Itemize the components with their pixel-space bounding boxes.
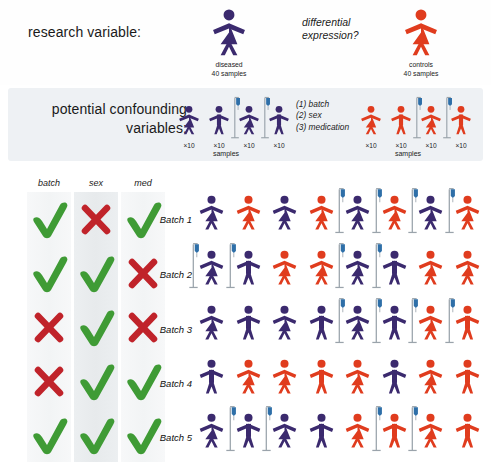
confounder-figure-diseased-1 (176, 100, 202, 145)
samples-label-diseased: samples (191, 150, 261, 157)
matrix-header-sex: sex (74, 178, 118, 188)
batch-2-person-6 (379, 245, 410, 295)
batch-4-person-3 (269, 354, 300, 404)
batch-1-person-1 (196, 190, 227, 240)
batch-4-person-7 (415, 354, 446, 404)
batch-row-5 (196, 406, 491, 458)
batch-5-person-8 (452, 408, 483, 458)
confounder-item-batch: (1) batch (296, 99, 349, 110)
batch-label-4: Batch 4 (140, 378, 192, 389)
batch-1-person-6 (379, 190, 410, 240)
batch-4-person-5 (342, 354, 373, 404)
batch-1-person-3 (269, 190, 300, 240)
figure-canvas: research variable: differential expressi… (0, 0, 491, 476)
confounder-figure-diseased-4 (266, 100, 292, 145)
batch-4-person-1 (196, 354, 227, 404)
batch-2-person-3 (269, 245, 300, 295)
batch-3-person-6 (379, 300, 410, 350)
research-variable-label: research variable: (28, 24, 141, 40)
batch-row-2 (196, 243, 491, 295)
batch-label-5: Batch 5 (140, 432, 192, 443)
batch-3-person-2 (233, 300, 264, 350)
batch-4-person-8 (452, 354, 483, 404)
group-samples-controls: 40 samples (376, 70, 466, 79)
group-samples-diseased: 40 samples (184, 70, 274, 79)
sample-multiplier-label: ×10 (358, 142, 384, 149)
batch-4-person-6 (379, 354, 410, 404)
matrix-cell-sex-row3 (74, 304, 118, 350)
batch-5-person-2 (233, 408, 264, 458)
batch-label-2: Batch 2 (140, 269, 192, 280)
confounder-figure-controls-4 (448, 100, 474, 145)
group-name-diseased: diseased (184, 61, 274, 70)
batch-3-person-8 (452, 300, 483, 350)
matrix-header-batch: batch (27, 178, 71, 188)
batch-2-person-8 (452, 245, 483, 295)
matrix-cell-sex-row2 (74, 250, 118, 296)
batch-1-person-4 (306, 190, 337, 240)
confounder-figure-controls-1 (358, 100, 384, 145)
samples-label-controls: samples (373, 150, 443, 157)
confounders-label-line1: potential confounding (22, 100, 187, 119)
research-caption-controls: controls40 samples (376, 61, 466, 78)
batch-5-person-4 (306, 408, 337, 458)
batch-row-1 (196, 188, 491, 240)
research-figure-diseased (208, 8, 250, 62)
batch-2-person-1 (196, 245, 227, 295)
batch-5-person-5 (342, 408, 373, 458)
matrix-cell-batch-row5 (27, 412, 71, 458)
research-caption-diseased: diseased40 samples (184, 61, 274, 78)
batch-2-person-2 (233, 245, 264, 295)
batch-label-3: Batch 3 (140, 324, 192, 335)
batch-row-3 (196, 298, 491, 350)
batch-5-person-6 (379, 408, 410, 458)
batch-1-person-5 (342, 190, 373, 240)
batch-3-person-5 (342, 300, 373, 350)
sample-multiplier-label: ×10 (176, 142, 202, 149)
matrix-cell-batch-row4 (27, 358, 71, 404)
group-name-controls: controls (376, 61, 466, 70)
batch-4-person-4 (306, 354, 337, 404)
matrix-cell-sex-row4 (74, 358, 118, 404)
batch-2-person-7 (415, 245, 446, 295)
batch-3-person-3 (269, 300, 300, 350)
matrix-cell-sex-row1 (74, 196, 118, 242)
confounders-label-line2: variables: (22, 119, 187, 138)
confounders-list: (1) batch (2) sex (3) medication (296, 99, 349, 133)
batch-label-1: Batch 1 (140, 214, 192, 225)
batch-2-person-4 (306, 245, 337, 295)
matrix-cell-batch-row2 (27, 250, 71, 296)
confounders-label: potential confounding variables: (22, 100, 187, 138)
matrix-cell-batch-row3 (27, 304, 71, 350)
batch-1-person-7 (415, 190, 446, 240)
sample-multiplier-label: ×10 (448, 142, 474, 149)
confounder-item-sex: (2) sex (296, 110, 349, 121)
matrix-cell-batch-row1 (27, 196, 71, 242)
batch-5-person-3 (269, 408, 300, 458)
matrix-cell-sex-row5 (74, 412, 118, 458)
confounder-item-medication: (3) medication (296, 122, 349, 133)
batch-2-person-5 (342, 245, 373, 295)
matrix-header-med: med (121, 178, 165, 188)
batch-1-person-2 (233, 190, 264, 240)
differential-expression-question: differential expression? (302, 16, 394, 42)
batch-4-person-2 (233, 354, 264, 404)
batch-1-person-8 (452, 190, 483, 240)
batch-5-person-1 (196, 408, 227, 458)
batch-3-person-7 (415, 300, 446, 350)
batch-3-person-1 (196, 300, 227, 350)
research-figure-controls (400, 8, 442, 62)
batch-5-person-7 (415, 408, 446, 458)
sample-multiplier-label: ×10 (266, 142, 292, 149)
batch-3-person-4 (306, 300, 337, 350)
batch-row-4 (196, 352, 491, 404)
